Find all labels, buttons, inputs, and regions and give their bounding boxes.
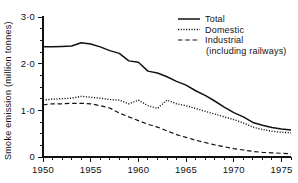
y-tick-label: 1·0	[21, 105, 35, 116]
y-tick-label: 2·0	[21, 58, 35, 69]
y-axis-ticks: 01·02·03·0	[21, 11, 43, 162]
x-tick-label: 1970	[223, 164, 245, 175]
chart-legend: TotalDomesticIndustrial(including railwa…	[178, 14, 287, 56]
series-line-domestic	[43, 96, 291, 132]
y-axis-title: Smoke emission (million tonnes)	[3, 21, 13, 160]
series-line-total	[43, 43, 291, 130]
x-tick-label: 1950	[32, 164, 54, 175]
legend-label: Industrial	[205, 35, 244, 45]
x-tick-label: 1975	[270, 164, 292, 175]
smoke-emission-line-chart: Smoke emission (million tonnes) 01·02·03…	[0, 0, 298, 183]
legend-label: (including railways)	[206, 46, 287, 56]
y-axis-title-group: Smoke emission (million tonnes)	[3, 21, 13, 160]
legend-label: Domestic	[205, 25, 244, 35]
y-tick-label: 0	[30, 151, 35, 162]
x-tick-label: 1955	[80, 164, 102, 175]
legend-label: Total	[205, 14, 225, 24]
series-line-industrial	[43, 103, 291, 153]
figure-container: Smoke emission (million tonnes) 01·02·03…	[0, 0, 298, 183]
x-tick-label: 1960	[127, 164, 149, 175]
x-axis-ticks: 195019551960196519701975	[32, 157, 292, 175]
y-tick-label: 3·0	[21, 11, 35, 22]
data-series-group	[43, 43, 291, 154]
x-tick-label: 1965	[175, 164, 197, 175]
